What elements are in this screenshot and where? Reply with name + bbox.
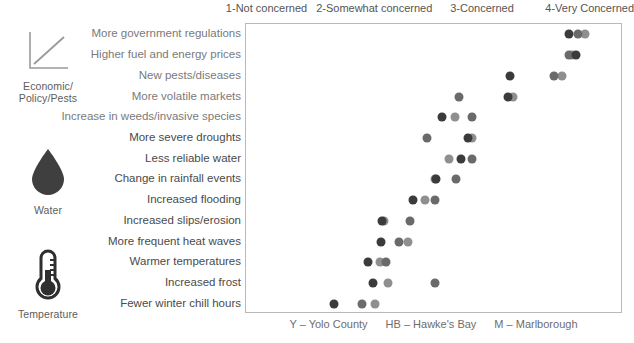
- group-label-water: Water: [0, 204, 96, 216]
- legend-item-2: M – Marlborough: [494, 318, 577, 330]
- data-point-M-8: [420, 196, 429, 205]
- category-label-13: Fewer winter chill hours: [120, 296, 245, 309]
- category-label-0: More government regulations: [91, 27, 245, 40]
- data-point-Y-4: [438, 113, 447, 122]
- x-tick-label-2: 2-Somewhat concerned: [316, 2, 432, 14]
- category-label-4: Increase in weeds/invasive species: [61, 110, 245, 123]
- data-point-Y-8: [408, 196, 417, 205]
- x-tick-label-1: 1-Not concerned: [226, 2, 307, 14]
- category-label-1: Higher fuel and energy prices: [91, 48, 245, 61]
- legend: Y – Yolo CountyHB – Hawke's BayM – Marlb…: [245, 318, 622, 330]
- group-label-economic-line1: Economic/: [0, 80, 96, 92]
- data-point-HB-10: [394, 237, 403, 246]
- legend-item-0: Y – Yolo County: [290, 318, 368, 330]
- data-point-Y-9: [377, 216, 386, 225]
- category-label-3: More volatile markets: [132, 89, 245, 102]
- data-point-HB-0: [573, 30, 582, 39]
- data-point-M-4: [450, 113, 459, 122]
- group-water: Water: [0, 146, 96, 216]
- category-label-11: Warmer temperatures: [130, 255, 245, 268]
- legend-item-1: HB – Hawke's Bay: [386, 318, 477, 330]
- data-point-Y-1: [571, 51, 580, 60]
- data-point-HB-3: [455, 92, 464, 101]
- data-point-Y-0: [565, 30, 574, 39]
- data-point-HB-9: [405, 216, 414, 225]
- category-label-9: Increased slips/erosion: [123, 213, 245, 226]
- data-point-Y-10: [376, 237, 385, 246]
- data-point-M-13: [371, 299, 380, 308]
- data-point-Y-12: [369, 278, 378, 287]
- category-label-7: Change in rainfall events: [114, 172, 245, 185]
- x-tick-label-3: 3-Concerned: [450, 2, 514, 14]
- data-point-HB-2: [550, 71, 559, 80]
- category-label-12: Increased frost: [165, 275, 245, 288]
- group-temperature: Temperature: [0, 248, 96, 320]
- x-tick-label-4: 4-Very Concerned: [545, 2, 634, 14]
- data-point-M-10: [403, 237, 412, 246]
- thermometer-icon: [0, 248, 96, 306]
- data-point-Y-3: [503, 92, 512, 101]
- data-point-HB-5: [422, 133, 431, 142]
- data-point-M-12: [384, 278, 393, 287]
- group-label-economic-line2: Policy/Pests: [0, 92, 96, 104]
- data-point-Y-7: [431, 175, 440, 184]
- data-point-Y-13: [330, 299, 339, 308]
- data-point-HB-8: [430, 196, 439, 205]
- category-label-2: New pests/diseases: [139, 68, 245, 81]
- data-point-Y-6: [457, 154, 466, 163]
- data-point-M-6: [444, 154, 453, 163]
- data-point-HB-12: [430, 278, 439, 287]
- data-point-Y-11: [363, 258, 372, 267]
- data-point-HB-11: [382, 258, 391, 267]
- data-point-HB-13: [358, 299, 367, 308]
- data-point-HB-7: [452, 175, 461, 184]
- category-label-5: More severe droughts: [129, 130, 245, 143]
- data-point-HB-4: [468, 113, 477, 122]
- data-point-Y-2: [505, 71, 514, 80]
- line-chart-icon: [0, 28, 96, 78]
- category-label-6: Less reliable water: [145, 151, 245, 164]
- data-point-HB-6: [468, 154, 477, 163]
- group-label-temperature: Temperature: [0, 308, 96, 320]
- water-drop-icon: [0, 146, 96, 202]
- group-economic-policy-pests: Economic/ Policy/Pests: [0, 28, 96, 104]
- data-point-Y-5: [463, 133, 472, 142]
- category-label-8: Increased flooding: [147, 193, 245, 206]
- category-label-10: More frequent heat waves: [108, 234, 245, 247]
- plot-area: [245, 23, 622, 313]
